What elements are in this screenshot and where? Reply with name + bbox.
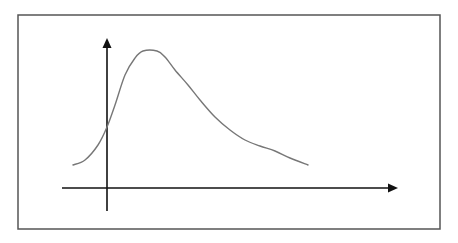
diagram-background	[0, 0, 458, 243]
skewed-curve-diagram	[0, 0, 458, 243]
